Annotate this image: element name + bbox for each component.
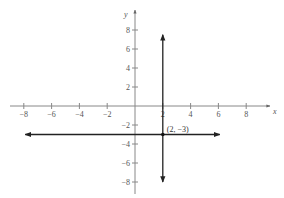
y-tick-label: −6	[121, 159, 130, 168]
x-tick-label: −4	[75, 110, 84, 119]
x-axis-label: x	[272, 107, 277, 116]
x-tick-label: 8	[244, 110, 248, 119]
x-tick-label: 6	[216, 110, 220, 119]
y-axis-label: y	[123, 10, 128, 19]
y-tick-label: 4	[126, 64, 130, 73]
y-tick-label: −8	[121, 178, 130, 187]
intersection-point	[161, 133, 165, 137]
x-tick-label: 4	[189, 110, 193, 119]
x-tick-label: −8	[20, 110, 29, 119]
point-label: (2, −3)	[167, 125, 189, 134]
x-tick-label: −6	[47, 110, 56, 119]
y-tick-label: −2	[121, 121, 130, 130]
y-tick-label: 2	[126, 83, 130, 92]
x-axis-ticks: −8−6−4−22468	[20, 103, 249, 119]
y-tick-label: 8	[126, 26, 130, 35]
y-tick-label: 6	[126, 45, 130, 54]
coordinate-plane: −8−6−4−22468 8642−2−4−6−8 x y (2, −3)	[0, 0, 284, 198]
x-tick-label: −2	[103, 110, 112, 119]
y-tick-label: −4	[121, 140, 130, 149]
